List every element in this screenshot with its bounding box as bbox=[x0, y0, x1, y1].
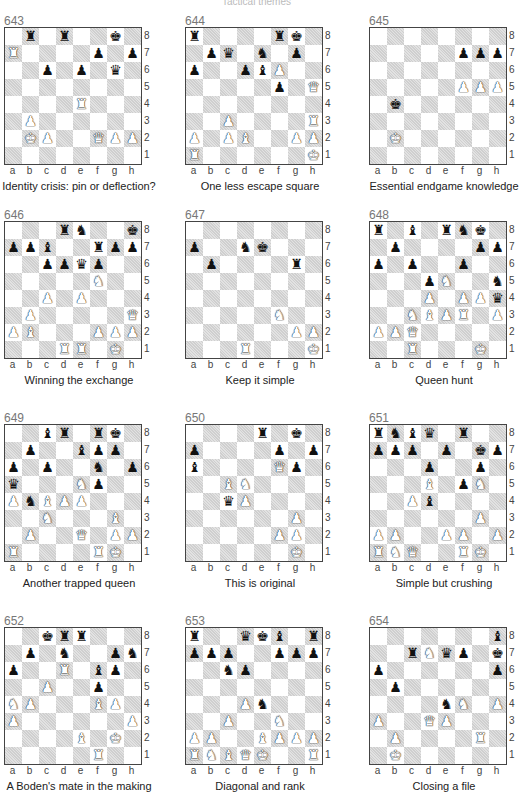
square-g6 bbox=[288, 62, 305, 79]
square-b1 bbox=[22, 341, 39, 358]
white-rook-icon: ♜ bbox=[58, 341, 71, 358]
square-e2 bbox=[438, 130, 455, 147]
square-b6 bbox=[387, 256, 404, 273]
rank-label: 5 bbox=[509, 78, 519, 95]
square-d2 bbox=[237, 730, 254, 747]
square-g2 bbox=[472, 130, 489, 147]
square-g7: ♟ bbox=[288, 645, 305, 662]
rank-label: 2 bbox=[325, 129, 335, 146]
white-knight-icon: ♞ bbox=[273, 307, 286, 324]
square-h2 bbox=[489, 324, 506, 341]
square-g5 bbox=[107, 79, 124, 96]
square-b8 bbox=[387, 28, 404, 45]
square-h1 bbox=[124, 747, 141, 764]
rank-label: 5 bbox=[144, 475, 154, 492]
square-d4 bbox=[237, 290, 254, 307]
white-pawn-icon: ♟ bbox=[109, 696, 122, 713]
square-c8 bbox=[404, 28, 421, 45]
square-b5 bbox=[387, 79, 404, 96]
file-label: h bbox=[488, 165, 505, 176]
square-g2 bbox=[472, 527, 489, 544]
square-a7 bbox=[5, 645, 22, 662]
square-f5: ♞ bbox=[90, 273, 107, 290]
file-label: b bbox=[386, 765, 403, 776]
square-b4 bbox=[387, 696, 404, 713]
square-c3 bbox=[404, 713, 421, 730]
white-pawn-icon: ♟ bbox=[239, 696, 252, 713]
square-d7: ♞ bbox=[56, 645, 73, 662]
black-pawn-icon: ♟ bbox=[75, 62, 88, 79]
square-f3 bbox=[90, 713, 107, 730]
black-pawn-icon: ♟ bbox=[188, 442, 201, 459]
square-b3 bbox=[22, 510, 39, 527]
rank-label: 5 bbox=[509, 678, 519, 695]
square-h8 bbox=[489, 28, 506, 45]
square-h4: ♛ bbox=[489, 290, 506, 307]
white-king-icon: ♚ bbox=[109, 730, 122, 747]
square-g3: ♟ bbox=[288, 510, 305, 527]
square-a5 bbox=[186, 79, 203, 96]
rank-label: 4 bbox=[509, 95, 519, 112]
rank-label: 8 bbox=[325, 27, 335, 44]
square-a7: ♟ bbox=[186, 239, 203, 256]
square-h5: ♞ bbox=[489, 273, 506, 290]
black-queen-icon: ♛ bbox=[222, 493, 235, 510]
square-c7: ♝ bbox=[39, 239, 56, 256]
square-a8 bbox=[5, 222, 22, 239]
file-label: f bbox=[270, 165, 287, 176]
black-pawn-icon: ♟ bbox=[126, 239, 139, 256]
square-a1 bbox=[5, 747, 22, 764]
white-pawn-icon: ♟ bbox=[273, 62, 286, 79]
white-pawn-icon: ♟ bbox=[389, 324, 402, 341]
square-e4 bbox=[438, 290, 455, 307]
rank-label: 1 bbox=[325, 543, 335, 560]
rank-label: 6 bbox=[144, 255, 154, 272]
black-pawn-icon: ♟ bbox=[109, 442, 122, 459]
black-pawn-icon: ♟ bbox=[474, 459, 487, 476]
puzzle-number: 644 bbox=[185, 14, 205, 28]
black-pawn-icon: ♟ bbox=[474, 45, 487, 62]
square-e3 bbox=[73, 113, 90, 130]
square-g5 bbox=[288, 273, 305, 290]
square-e2 bbox=[438, 730, 455, 747]
square-d7 bbox=[421, 442, 438, 459]
square-h3 bbox=[305, 307, 322, 324]
file-label: d bbox=[55, 765, 72, 776]
square-d7 bbox=[56, 442, 73, 459]
square-f2 bbox=[90, 527, 107, 544]
white-knight-icon: ♞ bbox=[92, 273, 105, 290]
square-g4 bbox=[288, 290, 305, 307]
file-label: b bbox=[21, 165, 38, 176]
square-f8: ♜ bbox=[455, 425, 472, 442]
puzzle-number: 649 bbox=[4, 411, 24, 425]
file-label: c bbox=[38, 562, 55, 573]
square-h8 bbox=[124, 628, 141, 645]
white-queen-icon: ♛ bbox=[92, 130, 105, 147]
square-b2: ♟ bbox=[203, 730, 220, 747]
rank-label: 4 bbox=[325, 95, 335, 112]
square-h5 bbox=[305, 476, 322, 493]
square-b3 bbox=[203, 713, 220, 730]
square-f5 bbox=[271, 679, 288, 696]
rank-label: 6 bbox=[144, 458, 154, 475]
square-f1 bbox=[455, 747, 472, 764]
black-pawn-icon: ♟ bbox=[24, 239, 37, 256]
file-label: g bbox=[287, 562, 304, 573]
file-label: c bbox=[219, 562, 236, 573]
square-a8: ♜ bbox=[186, 628, 203, 645]
square-h8 bbox=[124, 425, 141, 442]
black-king-icon: ♚ bbox=[474, 222, 487, 239]
square-e2: ♛ bbox=[73, 527, 90, 544]
square-h4 bbox=[124, 696, 141, 713]
square-g5: ♟ bbox=[472, 79, 489, 96]
square-c6: ♟ bbox=[39, 459, 56, 476]
square-a2: ♟ bbox=[370, 527, 387, 544]
puzzle-number: 646 bbox=[4, 208, 24, 222]
square-c3 bbox=[220, 307, 237, 324]
square-f8 bbox=[90, 222, 107, 239]
black-pawn-icon: ♟ bbox=[92, 442, 105, 459]
rank-label: 7 bbox=[144, 644, 154, 661]
white-pawn-icon: ♟ bbox=[239, 493, 252, 510]
square-d8: ♛ bbox=[421, 425, 438, 442]
file-label: g bbox=[287, 165, 304, 176]
